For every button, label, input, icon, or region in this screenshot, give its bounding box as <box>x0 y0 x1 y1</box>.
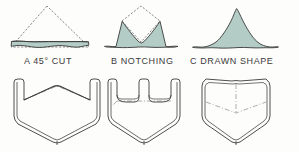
caption-b-notching: B NOTCHING <box>111 56 174 66</box>
profile-a-top-edge-line <box>12 41 89 42</box>
profile-a-fill <box>11 41 89 47</box>
box-a-inner-wall <box>17 82 97 140</box>
caption-c-drawn-shape: C DRAWN SHAPE <box>190 56 273 66</box>
profile-a-dashed-triangle <box>11 6 89 47</box>
box-a-outer-wall <box>14 79 100 143</box>
figure-illustration <box>0 0 299 152</box>
box-b-fold-diagonal-left <box>112 101 117 106</box>
profile-b-notching <box>105 6 179 48</box>
formed-shape-a-v-gap <box>14 79 100 145</box>
box-b-inner-wall <box>111 82 177 140</box>
box-b-slot-rim-right <box>149 95 171 99</box>
box-b-slot-rim <box>117 95 139 99</box>
sheet-metal-figure: A 45° CUT B NOTCHING C DRAWN SHAPE <box>0 0 299 152</box>
formed-shape-b-u-slot <box>108 79 180 145</box>
box-a-fold-lines <box>23 86 91 100</box>
box-a-rear-gap-rim <box>24 86 90 100</box>
profile-c-fill <box>193 9 279 49</box>
profile-b-dashed-left-edge <box>122 6 160 21</box>
profile-a-45-cut <box>11 6 89 47</box>
caption-a-45-cut: A 45° CUT <box>24 56 72 66</box>
profile-b-fill <box>105 21 179 47</box>
box-b-outer-wall <box>108 79 180 143</box>
profile-c-drawn-shape <box>193 9 279 49</box>
formed-shape-c-drawn <box>202 79 270 145</box>
